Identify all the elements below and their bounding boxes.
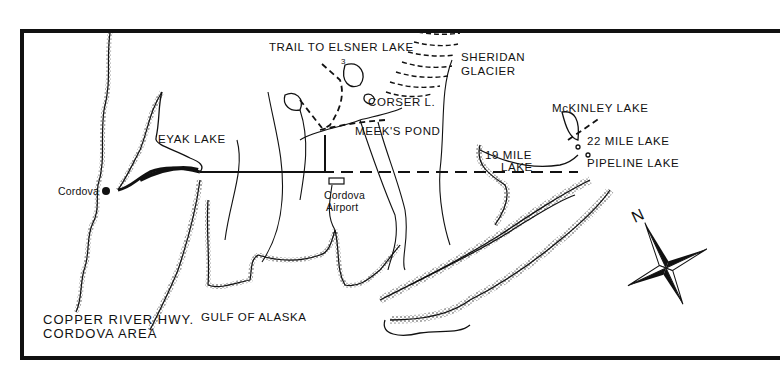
- glacier-label-2: GLACIER: [461, 66, 516, 78]
- corser-lake-label: CORSER L.: [368, 97, 435, 109]
- airport-label-2: Airport: [326, 202, 358, 213]
- trail-marker: 3: [341, 58, 346, 66]
- glacier-label-1: SHERIDAN: [461, 52, 525, 64]
- map-title-line-2: CORDOVA AREA: [43, 327, 157, 341]
- airport-marker: [329, 178, 344, 184]
- eyak-lake-label: EYAK LAKE: [158, 134, 226, 146]
- mile22-label: 22 MILE LAKE: [587, 136, 670, 148]
- cordova-town-marker: [102, 187, 110, 195]
- map-title-line-1: COPPER RIVER HWY.: [43, 313, 194, 327]
- pipeline-lake-label: PIPELINE LAKE: [587, 158, 679, 170]
- mile19-label-1: 19 MILE: [485, 150, 532, 162]
- mckinley-lake-label: McKINLEY LAKE: [552, 103, 648, 115]
- copper-river-delta: [380, 145, 610, 335]
- meeks-pond-label: MEEK'S POND: [355, 126, 440, 138]
- airport-label-1: Cordova: [324, 190, 365, 201]
- compass-rose-icon: [607, 204, 724, 322]
- cordova-label: Cordova: [58, 186, 99, 197]
- west-shoreline: [76, 33, 110, 312]
- coastline-middle: [150, 180, 400, 330]
- lakes: [284, 64, 590, 157]
- mile19-label-2: LAKE: [501, 162, 533, 174]
- trail-label: TRAIL TO ELSNER LAKE: [269, 42, 414, 54]
- gulf-label: GULF OF ALASKA: [201, 312, 307, 324]
